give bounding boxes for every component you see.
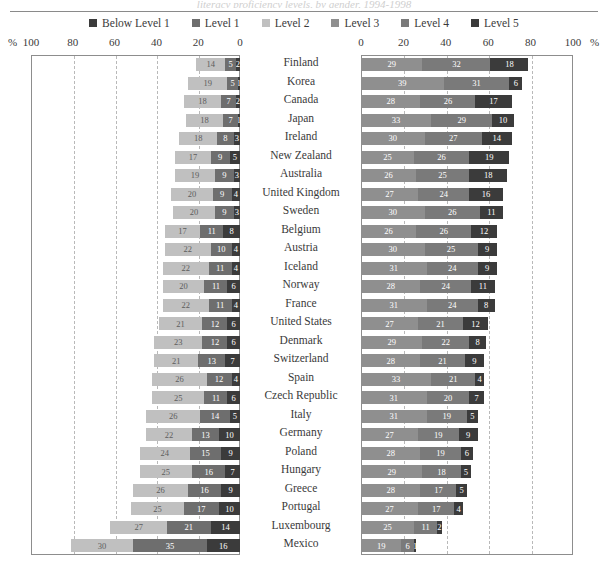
left-axis-tick-0: 0 [231, 36, 249, 48]
gridline-40 [157, 56, 158, 554]
country-label: Korea [243, 75, 359, 87]
legend-label: Level 1 [205, 17, 240, 29]
country-label: Poland [243, 445, 359, 457]
country-label: Denmark [243, 334, 359, 346]
right-axis-unit: % [590, 36, 599, 48]
legend-swatch-lvl3-icon [331, 19, 339, 27]
country-label: Sweden [243, 204, 359, 216]
country-label: Mexico [243, 537, 359, 549]
country-label: Japan [243, 112, 359, 124]
country-label: Ireland [243, 130, 359, 142]
legend-label: Level 4 [414, 17, 449, 29]
country-label: Finland [243, 56, 359, 68]
right-axis-tick-60: 60 [479, 36, 497, 48]
country-label: Italy [243, 408, 359, 420]
gridline-40 [447, 56, 448, 554]
chart-legend: Below Level 1Level 1Level 2Level 3Level … [0, 17, 608, 29]
country-label: Austria [243, 241, 359, 253]
country-label: Greece [243, 482, 359, 494]
legend-item-lvl3: Level 3 [331, 17, 379, 29]
cut-off-header-text: literacy proficiency levels, by gender, … [0, 0, 608, 8]
gridline-60 [116, 56, 117, 554]
country-label: Hungary [243, 463, 359, 475]
left-axis-unit: % [8, 36, 17, 48]
legend-item-lvl1: Level 1 [192, 17, 240, 29]
left-axis-tick-60: 60 [106, 36, 124, 48]
left-axis-tick-80: 80 [64, 36, 82, 48]
right-axis-ticks: 020406080100% [333, 36, 600, 50]
country-label: Australia [243, 167, 359, 179]
legend-item-lvl5: Level 5 [471, 17, 519, 29]
legend-label: Level 2 [275, 17, 310, 29]
legend-swatch-lvl5-icon [471, 19, 479, 27]
country-label: Switzerland [243, 352, 359, 364]
gridline-20 [404, 56, 405, 554]
legend-item-lvl2: Level 2 [262, 17, 310, 29]
right-axis-tick-100: 100 [564, 36, 582, 48]
legend-item-below1: Below Level 1 [89, 17, 170, 29]
country-label: Belgium [243, 223, 359, 235]
legend-item-lvl4: Level 4 [401, 17, 449, 29]
country-label: United States [243, 315, 359, 327]
left-axis-tick-40: 40 [147, 36, 165, 48]
left-plot-frame [31, 55, 240, 555]
country-label: Norway [243, 278, 359, 290]
legend-swatch-lvl4-icon [401, 19, 409, 27]
country-label: Luxembourg [243, 519, 359, 531]
legend-label: Level 3 [344, 17, 379, 29]
left-axis-tick-20: 20 [189, 36, 207, 48]
legend-swatch-lvl1-icon [192, 19, 200, 27]
legend-label: Level 5 [484, 17, 519, 29]
right-axis-tick-40: 40 [437, 36, 455, 48]
country-label: Czech Republic [243, 389, 359, 401]
country-label: France [243, 297, 359, 309]
legend-swatch-below1-icon [89, 19, 97, 27]
country-label: Germany [243, 426, 359, 438]
right-plot-frame [361, 55, 573, 555]
country-label: Portugal [243, 500, 359, 512]
country-label: Canada [243, 93, 359, 105]
header-rule [10, 11, 598, 12]
country-label: United Kingdom [243, 186, 359, 198]
legend-label: Below Level 1 [102, 17, 170, 29]
right-axis-tick-0: 0 [352, 36, 370, 48]
gridline-80 [74, 56, 75, 554]
gridline-20 [199, 56, 200, 554]
left-axis-tick-100: 100 [22, 36, 40, 48]
right-axis-tick-80: 80 [522, 36, 540, 48]
country-label: Iceland [243, 260, 359, 272]
left-axis-ticks: %100806040200 [8, 36, 260, 50]
country-label: Spain [243, 371, 359, 383]
legend-swatch-lvl2-icon [262, 19, 270, 27]
gridline-60 [489, 56, 490, 554]
gridline-80 [532, 56, 533, 554]
country-label: New Zealand [243, 149, 359, 161]
right-axis-tick-20: 20 [394, 36, 412, 48]
